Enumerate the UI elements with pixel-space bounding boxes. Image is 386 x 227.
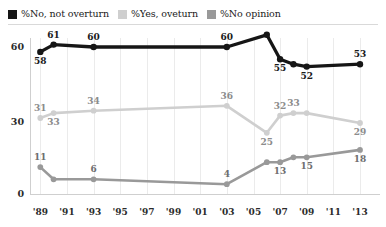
legend-swatch-icon-no-not-overturn [8,10,17,19]
data-point-label: 55 [268,64,292,73]
legend-label-yes-overturn: %Yes, oveturn [131,9,198,19]
series-line-1 [40,106,360,133]
data-point-marker[interactable] [357,61,363,67]
data-point-marker[interactable] [291,154,297,160]
data-point-label: 4 [215,170,239,179]
legend-swatch-icon-no-opinion [207,10,216,19]
data-point-label: 15 [295,162,319,171]
data-point-label: 61 [42,31,66,40]
data-point-marker[interactable] [304,110,310,116]
data-point-marker[interactable] [264,130,270,136]
data-point-marker[interactable] [277,113,283,119]
data-point-label: 60 [215,33,239,42]
data-point-label: 53 [348,50,372,59]
data-point-label: 60 [82,33,106,42]
legend-swatch-icon-yes-overturn [118,10,127,19]
data-point-label: 34 [82,97,106,106]
legend-label-no-not-overturn: %No, not overturn [21,9,109,19]
data-point-label: 33 [42,118,66,127]
plot-area: 03060 '89'91'93'95'97'99'01'03'05'07'09'… [0,28,386,227]
data-point-label: 31 [28,104,52,113]
data-point-label: 25 [255,138,279,147]
legend-item-yes-overturn[interactable]: %Yes, oveturn [118,9,198,19]
data-point-marker[interactable] [264,32,270,38]
data-point-label: 36 [215,92,239,101]
data-point-marker[interactable] [224,44,230,50]
data-point-label: 18 [348,155,372,164]
data-point-marker[interactable] [264,159,270,165]
legend-divider [8,24,378,25]
data-point-marker[interactable] [50,41,56,47]
data-point-marker[interactable] [90,44,96,50]
data-point-marker[interactable] [51,176,57,182]
data-point-label: 29 [348,128,372,137]
data-point-marker[interactable] [357,120,363,126]
data-point-marker[interactable] [357,147,363,153]
data-point-marker[interactable] [91,108,97,114]
data-point-marker[interactable] [277,56,283,62]
data-point-marker[interactable] [291,110,297,116]
legend-item-no-opinion[interactable]: %No opinion [207,9,281,19]
data-point-marker[interactable] [37,49,43,55]
data-point-marker[interactable] [37,164,43,170]
data-point-label: 52 [295,72,319,81]
data-point-label: 33 [281,99,305,108]
chart-legend: %No, not overturn %Yes, oveturn %No opin… [8,6,290,22]
chart-root: %No, not overturn %Yes, oveturn %No opin… [0,0,386,227]
data-point-label: 11 [28,153,52,162]
data-point-marker[interactable] [277,159,283,165]
data-point-marker[interactable] [91,176,97,182]
data-point-marker[interactable] [304,154,310,160]
data-point-label: 13 [268,167,292,176]
legend-item-no-not-overturn[interactable]: %No, not overturn [8,9,109,19]
data-point-marker[interactable] [224,181,230,187]
series-layer [0,28,386,227]
data-point-marker[interactable] [304,63,310,69]
data-point-label: 6 [82,165,106,174]
data-point-label: 58 [28,57,52,66]
data-point-marker[interactable] [224,103,230,109]
legend-label-no-opinion: %No opinion [220,9,281,19]
